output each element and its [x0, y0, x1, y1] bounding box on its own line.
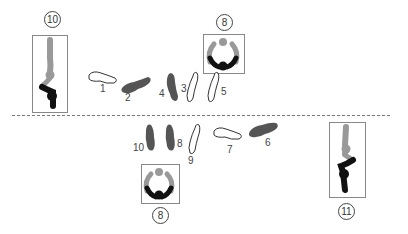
- dancer-overhead-view-icon: [209, 38, 237, 71]
- footprint-1-icon: [89, 72, 116, 83]
- footprint-9-icon: [189, 124, 200, 153]
- dancer-side-view-icon-bottom: [339, 127, 353, 190]
- footprint-4-icon: [167, 73, 178, 101]
- step-number-1: 1: [100, 83, 106, 94]
- step-number-6: 6: [265, 137, 271, 148]
- footprint-10-icon: [146, 125, 155, 151]
- dancer-side-view-icon: [42, 40, 57, 106]
- footprint-2-icon: [121, 77, 150, 93]
- dancer-overhead-view-icon-bottom: [146, 168, 172, 200]
- footprint-5-icon: [208, 72, 219, 101]
- step-number-10: 10: [133, 142, 144, 153]
- step-number-2: 2: [125, 92, 131, 103]
- footprint-3-icon: [187, 72, 198, 101]
- footprint-6-icon: [249, 123, 278, 137]
- step-number-8: 8: [177, 138, 183, 149]
- footprint-8-icon: [166, 125, 175, 151]
- step-number-3: 3: [181, 83, 187, 94]
- step-number-7: 7: [227, 144, 233, 155]
- step-number-4: 4: [159, 88, 165, 99]
- step-number-9: 9: [188, 155, 194, 166]
- footprint-7-icon: [214, 128, 241, 139]
- dance-steps-drawing: [0, 0, 408, 234]
- step-number-5: 5: [221, 86, 227, 97]
